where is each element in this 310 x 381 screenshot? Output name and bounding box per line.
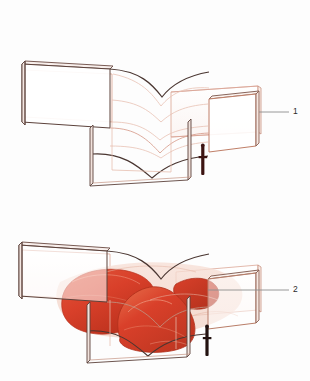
scale-figure-body xyxy=(201,146,204,175)
bottom-near-bottom-arm-left-edge xyxy=(87,302,90,363)
bottom-near-right-arm xyxy=(208,270,259,329)
figure-canvas: 1 xyxy=(0,0,310,381)
near-right-arm-face xyxy=(209,94,256,152)
bottom-near-left-arm-face xyxy=(19,245,107,302)
scale-figure-body xyxy=(205,327,208,356)
near-left-arm-face xyxy=(22,64,110,128)
callout-1-label: 1 xyxy=(293,106,298,116)
bottom-near-right-arm-side-edge xyxy=(256,270,259,323)
callout-2-label: 2 xyxy=(293,284,298,294)
near-right-arm-side-edge xyxy=(256,91,259,146)
near-right-arm xyxy=(209,91,259,152)
near-bottom-arm-right-edge xyxy=(188,119,191,180)
near-bottom-arm-face xyxy=(90,122,188,186)
scale-figure-arms xyxy=(199,156,208,158)
scale-figure-head xyxy=(201,144,205,148)
scale-figure-head xyxy=(205,325,209,329)
scale-figure-arms xyxy=(203,337,212,339)
bottom-near-left-arm xyxy=(19,242,110,302)
near-left-arm xyxy=(22,61,113,128)
bottom-near-right-arm-face xyxy=(208,273,256,329)
diagram-svg: 1 xyxy=(0,0,310,381)
bottom-near-bottom-arm-right-edge xyxy=(187,296,190,357)
near-bottom-arm xyxy=(90,119,191,186)
